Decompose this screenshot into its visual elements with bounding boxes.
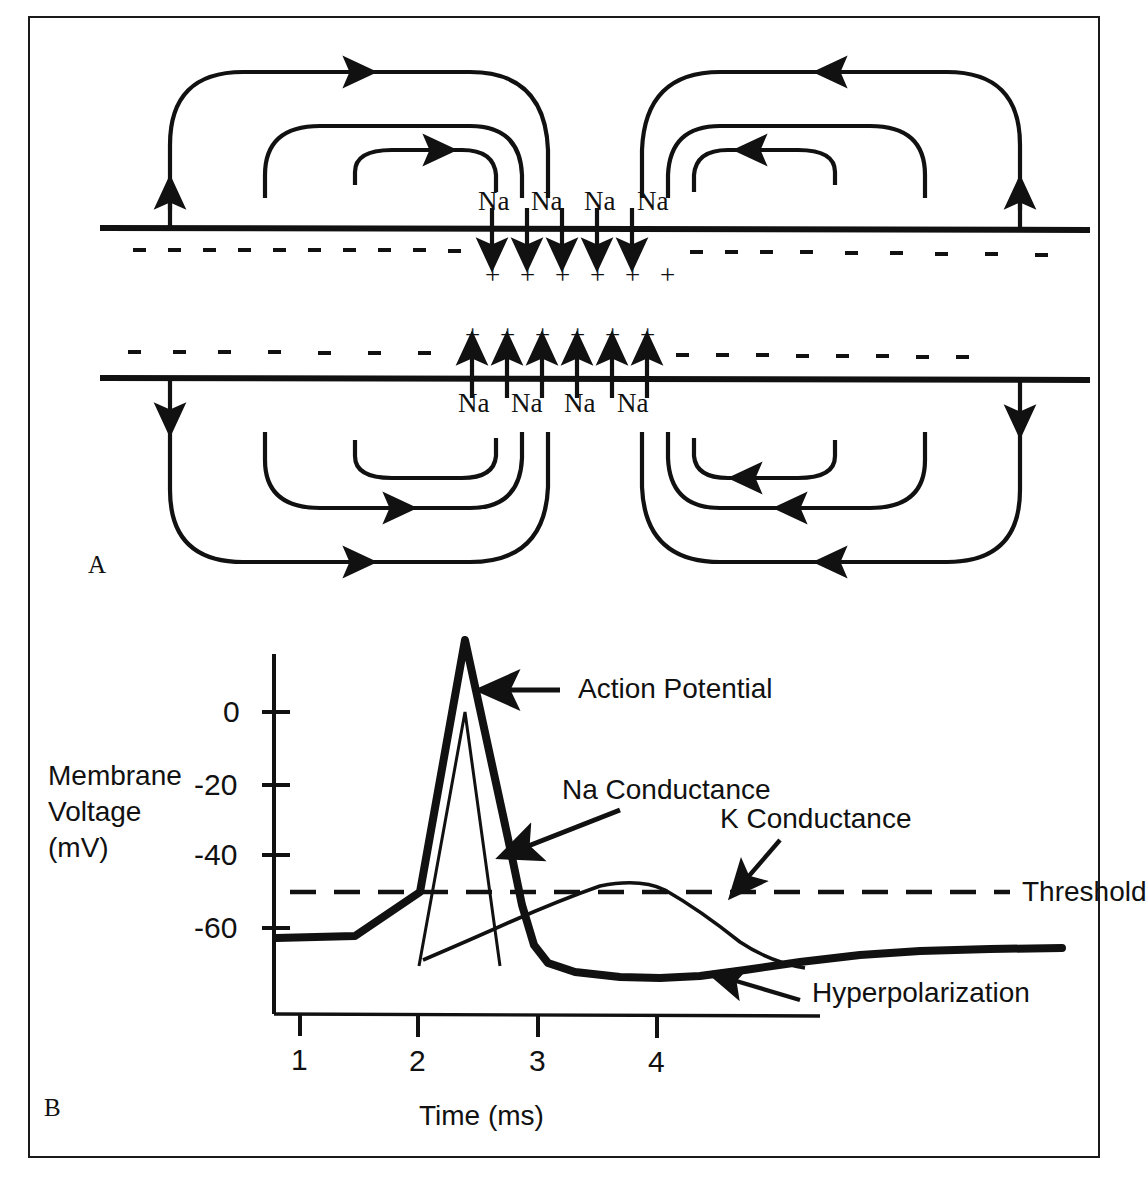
- y-tick-label-minus20: -20: [194, 768, 237, 802]
- annotation-action-potential: Action Potential: [578, 673, 773, 705]
- y-axis-title-line-2: Voltage: [48, 794, 182, 830]
- x-tick-label-2: 2: [409, 1044, 426, 1078]
- y-tick-label-0: 0: [223, 695, 240, 729]
- y-axis-title: Membrane Voltage (mV): [48, 758, 182, 865]
- annotation-threshold: Threshold: [1022, 876, 1147, 908]
- annotation-k-conductance: K Conductance: [720, 803, 911, 835]
- x-tick-label-4: 4: [648, 1045, 665, 1079]
- x-tick-label-1: 1: [291, 1043, 308, 1077]
- y-axis-title-line-3: (mV): [48, 830, 182, 866]
- x-tick-label-3: 3: [529, 1044, 546, 1078]
- y-axis-title-line-1: Membrane: [48, 758, 182, 794]
- y-tick-label-minus60: -60: [194, 911, 237, 945]
- annotation-hyperpolarization: Hyperpolarization: [812, 977, 1030, 1009]
- annotation-na-conductance: Na Conductance: [562, 774, 771, 806]
- x-axis-title: Time (ms): [419, 1100, 544, 1132]
- y-tick-label-minus40: -40: [194, 838, 237, 872]
